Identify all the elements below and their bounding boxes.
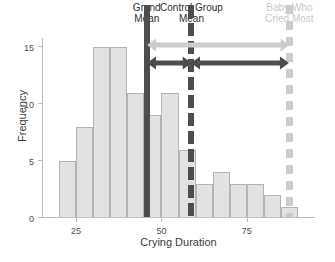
x-axis-label: Crying Duration <box>42 236 315 248</box>
y-axis-tick-label: 5 <box>29 157 34 167</box>
x-axis-tick-label: 25 <box>71 226 81 236</box>
histogram-bar <box>93 47 110 218</box>
x-axis-tick-label: 75 <box>242 226 252 236</box>
histogram-bar <box>247 184 264 218</box>
y-axis-line <box>42 38 43 218</box>
x-axis-tick <box>247 218 248 222</box>
control-group-mean-line <box>188 5 194 218</box>
y-axis-tick-label: 15 <box>24 43 34 53</box>
y-axis-tick <box>38 160 42 161</box>
histogram-bar <box>110 47 127 218</box>
histogram-bar <box>264 195 281 218</box>
baby-who-cried-most-line <box>286 5 293 218</box>
deviation-arrow <box>147 38 290 52</box>
y-axis-label: Frequency <box>16 68 28 164</box>
y-axis-tick <box>38 46 42 47</box>
histogram-bar <box>161 93 178 218</box>
y-axis-tick <box>38 217 42 218</box>
x-axis-tick <box>76 218 77 222</box>
histogram-bar <box>230 184 247 218</box>
histogram-bar <box>59 161 76 218</box>
y-axis-tick-label: 0 <box>29 214 34 224</box>
x-axis-tick <box>161 218 162 222</box>
x-axis-tick-label: 50 <box>156 226 166 236</box>
histogram-figure: Grand Mean Control Group Mean Baby Who C… <box>0 0 335 262</box>
histogram-bar <box>76 127 93 218</box>
histogram-bar <box>213 172 230 218</box>
plot-area: 255075 051015 <box>42 38 315 218</box>
grand-mean-line <box>144 5 150 218</box>
deviation-arrow <box>191 56 289 70</box>
x-axis-line <box>42 217 315 218</box>
histogram-bar <box>127 93 144 218</box>
deviation-arrow <box>147 56 192 70</box>
histogram-bar <box>196 184 213 218</box>
y-axis-tick <box>38 103 42 104</box>
